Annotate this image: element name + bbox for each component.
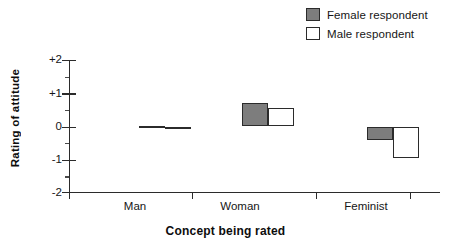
- y-tick-inner-plus1: [70, 93, 76, 94]
- y-tick-label-minus1: -1: [38, 154, 62, 166]
- y-tick-inner-minus1: [70, 160, 76, 161]
- bar-female-feminist: [367, 127, 393, 141]
- y-tick-major-plus1: [62, 93, 69, 94]
- chart-legend: Female respondent Male respondent: [306, 7, 428, 41]
- y-tick-minor-0-5: [65, 110, 69, 111]
- bar-male-man: [165, 127, 191, 130]
- y-tick-label-plus2: +2: [38, 54, 62, 66]
- bar-chart: Female respondent Male respondent Rating…: [0, 0, 451, 246]
- y-tick-minor-neg1-5: [65, 176, 69, 177]
- y-tick-major-zero: [62, 127, 69, 128]
- y-tick-minor-neg0-5: [65, 143, 69, 144]
- bar-male-woman: [268, 108, 294, 126]
- x-axis-line: [69, 192, 440, 193]
- hollow-square-icon: [306, 27, 320, 40]
- legend-label-female-respondent: Female respondent: [327, 9, 428, 21]
- x-tick-label-feminist: Feminist: [344, 200, 387, 212]
- x-tick-end: [410, 193, 411, 199]
- bar-female-man: [139, 126, 165, 128]
- y-axis-title: Rating of attitude: [9, 69, 27, 167]
- filled-square-icon: [306, 8, 320, 21]
- y-tick-major-plus2: [62, 60, 69, 61]
- y-tick-label-plus1: +1: [38, 88, 62, 100]
- y-tick-major-minus2: [62, 192, 69, 193]
- x-tick-woman-feminist: [316, 193, 317, 199]
- y-tick-inner-plus2: [70, 60, 76, 61]
- y-tick-minor-1-5: [65, 77, 69, 78]
- y-tick-inner-zero: [70, 127, 76, 128]
- x-axis-title: Concept being rated: [0, 224, 451, 238]
- bar-female-woman: [242, 103, 268, 127]
- x-tick-label-woman: Woman: [220, 200, 259, 212]
- plot-area: [69, 60, 440, 193]
- y-tick-major-minus1: [62, 160, 69, 161]
- legend-item-female-respondent: Female respondent: [306, 7, 428, 22]
- bar-male-feminist: [393, 127, 419, 159]
- legend-label-male-respondent: Male respondent: [327, 28, 414, 40]
- legend-item-male-respondent: Male respondent: [306, 26, 428, 41]
- x-tick-man-woman: [192, 193, 193, 199]
- y-tick-label-zero: 0: [38, 121, 62, 133]
- x-tick-start: [69, 193, 70, 199]
- y-tick-label-minus2: -2: [38, 187, 62, 199]
- x-tick-label-man: Man: [124, 200, 146, 212]
